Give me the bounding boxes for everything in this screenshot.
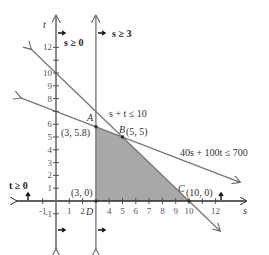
svg-text:8: 8 (48, 94, 53, 104)
arrow-right-icon (58, 31, 65, 35)
constraint-label-s-ge-0: s ≥ 0 (64, 37, 83, 48)
svg-text:3: 3 (48, 158, 53, 168)
svg-text:6: 6 (134, 206, 139, 216)
svg-text:6: 6 (48, 119, 53, 129)
vertex-D-label: D (85, 206, 94, 217)
vertex-B-label: B (119, 124, 125, 135)
svg-text:2: 2 (48, 170, 53, 180)
vertex-A-label: A (86, 112, 94, 123)
svg-text:5: 5 (48, 132, 53, 142)
constraint-line-s-plus-t (31, 49, 220, 231)
arrow-up-icon (219, 193, 223, 200)
linear-programming-graph: -1124567891012-1123456891012 t s s ≥ 0 s… (0, 0, 269, 255)
feasible-region (96, 127, 189, 201)
constraint-label-t-ge-0: t ≥ 0 (9, 180, 28, 191)
s-axis-label: s (243, 205, 247, 216)
vertex-A-coords: (3, 5.8) (61, 127, 90, 139)
svg-text:12: 12 (211, 206, 220, 216)
svg-text:7: 7 (147, 206, 152, 216)
arrow-up-icon (26, 193, 30, 200)
vertex-B-coords: (5, 5) (126, 126, 148, 138)
svg-text:4: 4 (48, 145, 53, 155)
constraint-label-s-ge-3: s ≥ 3 (112, 28, 131, 39)
arrow-right-icon (98, 228, 105, 232)
svg-text:5: 5 (120, 206, 125, 216)
svg-text:9: 9 (173, 206, 178, 216)
t-axis-label: t (43, 19, 46, 30)
vertex-D-coords: (3, 0) (71, 187, 93, 199)
vertex-C-point (187, 199, 191, 203)
vertex-D-point (94, 199, 98, 203)
constraint-label-s-plus-t: s + t ≤ 10 (109, 108, 147, 119)
svg-text:-1: -1 (45, 209, 53, 219)
constraint-label-40s-100t: 40s + 100t ≤ 700 (180, 147, 248, 158)
svg-text:8: 8 (160, 206, 165, 216)
svg-text:10: 10 (43, 68, 53, 78)
svg-text:2: 2 (80, 206, 85, 216)
vertex-C-coords: (10, 0) (186, 187, 213, 199)
svg-text:10: 10 (185, 206, 195, 216)
svg-text:12: 12 (43, 42, 52, 52)
svg-text:1: 1 (48, 183, 53, 193)
arrow-right-icon (98, 31, 105, 35)
arrow-right-icon (58, 228, 65, 232)
svg-text:9: 9 (48, 81, 53, 91)
vertex-C-label: C (178, 183, 185, 194)
vertex-A-point (94, 125, 98, 129)
svg-text:4: 4 (107, 206, 112, 216)
svg-text:1: 1 (67, 206, 72, 216)
vertex-B-point (121, 135, 125, 139)
